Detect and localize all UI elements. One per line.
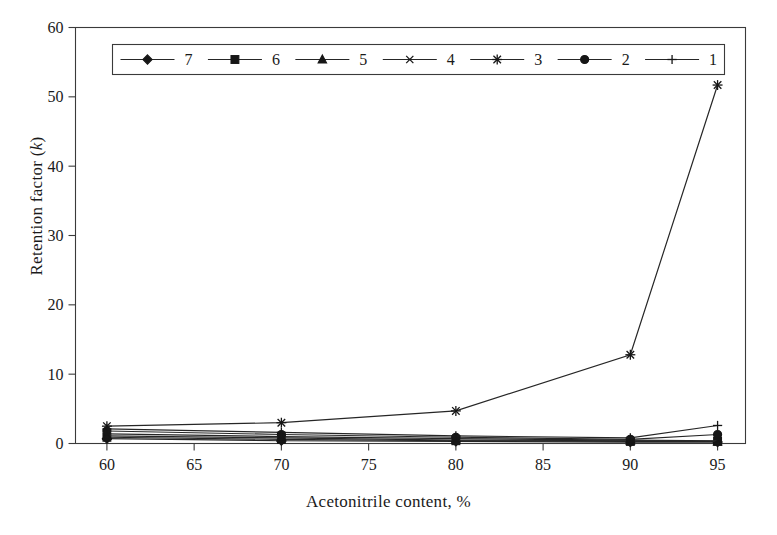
x-tick-label: 85 [535,456,551,473]
asterisk-marker [625,350,635,360]
series-line-3 [107,85,718,426]
plus-marker [713,421,722,430]
y-tick-label: 30 [48,227,64,244]
legend-item-7[interactable]: 7 [113,45,200,75]
asterisk-marker [713,80,723,90]
legend-label-5: 5 [359,51,367,68]
legend-label-2: 2 [622,51,630,68]
plot-frame [76,28,746,444]
asterisk-marker [492,55,502,65]
y-tick-label: 10 [48,366,64,383]
x-tick-label: 65 [186,456,202,473]
asterisk-marker [451,406,461,416]
y-axis-ticks: 0102030405060 [48,19,76,452]
asterisk-marker [276,418,286,428]
x-tick-label: 95 [710,456,726,473]
legend-label-7: 7 [185,51,193,68]
legend-label-3: 3 [534,51,542,68]
legend-item-5[interactable]: 5 [287,45,374,75]
y-tick-label: 20 [48,296,64,313]
chart-figure: Retention factor (k) Acetonitrile conten… [0,0,777,535]
chart-legend: 7654321 [113,45,725,75]
x-tick-label: 75 [361,456,377,473]
y-tick-label: 60 [48,19,64,36]
plot-area: 0102030405060 6065707580859095 7654321 [0,0,777,535]
y-tick-label: 50 [48,88,64,105]
x-tick-label: 70 [273,456,289,473]
legend-item-4[interactable]: 4 [375,45,462,75]
x-tick-label: 60 [99,456,115,473]
x-axis-ticks: 6065707580859095 [99,444,726,473]
circle-marker [714,430,722,438]
legend-item-6[interactable]: 6 [200,45,287,75]
circle-marker [581,55,589,63]
legend-label-6: 6 [272,51,280,68]
x-tick-label: 90 [622,456,638,473]
series-3 [102,80,723,431]
legend-item-1[interactable]: 1 [637,45,724,75]
legend-label-1: 1 [709,51,717,68]
square-marker [231,56,239,64]
y-tick-label: 0 [56,435,64,452]
legend-item-2[interactable]: 2 [550,45,637,75]
legend-item-3[interactable]: 3 [462,45,549,75]
y-tick-label: 40 [48,158,64,175]
legend-label-4: 4 [447,51,455,68]
series-layer [102,80,723,447]
x-tick-label: 80 [448,456,464,473]
